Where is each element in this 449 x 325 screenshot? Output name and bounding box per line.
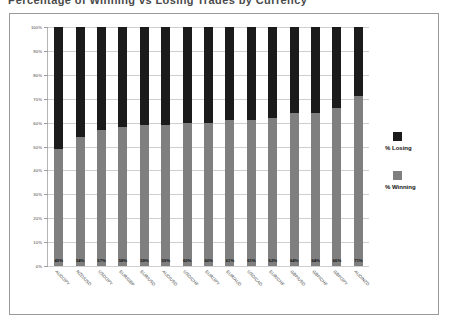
bar-segment-losing[interactable] xyxy=(332,27,341,108)
y-axis-label: 10% xyxy=(33,240,42,245)
bar-column[interactable]: 62%EUR/CHF xyxy=(262,27,283,266)
bar-group: 49%AUD/JPY54%NZD/USD57%USD/JPY58%EUR/GBP… xyxy=(48,27,369,266)
bar-value-label: 59% xyxy=(140,258,148,263)
x-axis-category-label: AUD/USD xyxy=(161,269,178,287)
bar-segment-winning[interactable] xyxy=(247,120,256,266)
stacked-bar[interactable] xyxy=(204,27,213,266)
y-axis-label: 60% xyxy=(33,120,42,125)
y-axis-label: 0% xyxy=(36,264,42,269)
bar-column[interactable]: 64%GBP/USD xyxy=(283,27,304,266)
y-axis-label: 70% xyxy=(33,96,42,101)
x-axis-category-label: AUD/NZD xyxy=(354,269,371,287)
bar-column[interactable]: 64%GBP/CHF xyxy=(305,27,326,266)
chart-legend: % Losing% Winning xyxy=(385,132,447,210)
stacked-bar[interactable] xyxy=(311,27,320,266)
stacked-bar[interactable] xyxy=(268,27,277,266)
legend-label: % Winning xyxy=(385,184,416,190)
bar-value-label: 61% xyxy=(247,258,255,263)
y-axis-label: 100% xyxy=(31,25,42,30)
bar-column[interactable]: 58%EUR/GBP xyxy=(112,27,133,266)
y-axis-label: 40% xyxy=(33,168,42,173)
x-axis-category-label: GBP/CHF xyxy=(311,269,328,287)
bar-segment-winning[interactable] xyxy=(290,113,299,266)
bar-column[interactable]: 60%USD/CHF xyxy=(176,27,197,266)
stacked-bar[interactable] xyxy=(140,27,149,266)
bar-segment-losing[interactable] xyxy=(54,27,63,149)
x-axis-category-label: GBP/JPY xyxy=(332,269,349,286)
stacked-bar[interactable] xyxy=(54,27,63,266)
bar-segment-winning[interactable] xyxy=(225,120,234,266)
bar-segment-winning[interactable] xyxy=(76,137,85,266)
bar-segment-winning[interactable] xyxy=(118,127,127,266)
legend-swatch xyxy=(393,132,402,141)
legend-label: % Losing xyxy=(385,145,412,151)
legend-item[interactable]: % Winning xyxy=(385,171,447,190)
bar-column[interactable]: 59%EUR/USD xyxy=(134,27,155,266)
x-axis-category-label: NZD/USD xyxy=(75,269,92,287)
bar-segment-losing[interactable] xyxy=(311,27,320,113)
stacked-bar[interactable] xyxy=(290,27,299,266)
bar-segment-losing[interactable] xyxy=(290,27,299,113)
stacked-bar[interactable] xyxy=(118,27,127,266)
bar-segment-winning[interactable] xyxy=(183,123,192,266)
y-axis-label: 20% xyxy=(33,216,42,221)
bar-segment-losing[interactable] xyxy=(225,27,234,120)
stacked-bar[interactable] xyxy=(354,27,363,266)
bar-column[interactable]: 57%USD/JPY xyxy=(91,27,112,266)
legend-item[interactable]: % Losing xyxy=(385,132,447,151)
bar-column[interactable]: 66%GBP/JPY xyxy=(326,27,347,266)
x-axis-category-label: GBP/USD xyxy=(290,269,307,287)
bar-value-label: 58% xyxy=(119,258,127,263)
bar-segment-losing[interactable] xyxy=(118,27,127,127)
bar-column[interactable]: 49%AUD/JPY xyxy=(48,27,69,266)
stacked-bar[interactable] xyxy=(97,27,106,266)
x-axis-category-label: USD/JPY xyxy=(97,269,114,286)
bar-segment-losing[interactable] xyxy=(97,27,106,130)
bar-column[interactable]: 59%AUD/USD xyxy=(155,27,176,266)
bar-segment-winning[interactable] xyxy=(332,108,341,266)
bar-column[interactable]: 54%NZD/USD xyxy=(69,27,90,266)
y-axis-tick xyxy=(44,266,48,267)
bar-segment-winning[interactable] xyxy=(311,113,320,266)
stacked-bar[interactable] xyxy=(332,27,341,266)
bar-segment-losing[interactable] xyxy=(247,27,256,120)
x-axis-category-label: EUR/AUD xyxy=(225,269,242,287)
bar-value-label: 71% xyxy=(354,258,362,263)
bar-value-label: 61% xyxy=(226,258,234,263)
bar-segment-losing[interactable] xyxy=(354,27,363,96)
bar-segment-losing[interactable] xyxy=(268,27,277,118)
chart-frame: 0%10%20%30%40%50%60%70%80%90%100% 49%AUD… xyxy=(9,13,439,315)
chart-title-clipped: Percentage of Winning vs Losing Trades b… xyxy=(8,0,308,7)
x-axis-category-label: EUR/CHF xyxy=(268,269,285,287)
bar-value-label: 54% xyxy=(76,258,84,263)
bar-value-label: 60% xyxy=(204,258,212,263)
bar-column[interactable]: 71%AUD/NZD xyxy=(348,27,369,266)
x-axis-category-label: EUR/USD xyxy=(140,269,157,287)
bar-segment-winning[interactable] xyxy=(54,149,63,266)
bar-segment-losing[interactable] xyxy=(140,27,149,125)
bar-segment-losing[interactable] xyxy=(161,27,170,125)
bar-segment-winning[interactable] xyxy=(140,125,149,266)
stacked-bar[interactable] xyxy=(161,27,170,266)
bar-column[interactable]: 60%EUR/JPY xyxy=(198,27,219,266)
bar-segment-losing[interactable] xyxy=(204,27,213,123)
bar-segment-winning[interactable] xyxy=(204,123,213,266)
stacked-bar[interactable] xyxy=(183,27,192,266)
bar-segment-winning[interactable] xyxy=(97,130,106,266)
gridline xyxy=(48,266,369,267)
bar-column[interactable]: 61%EUR/AUD xyxy=(219,27,240,266)
stacked-bar[interactable] xyxy=(225,27,234,266)
bar-value-label: 49% xyxy=(55,258,63,263)
stacked-bar[interactable] xyxy=(247,27,256,266)
bar-segment-losing[interactable] xyxy=(183,27,192,123)
chart-title-text: Percentage of Winning vs Losing Trades b… xyxy=(8,0,308,6)
bar-segment-losing[interactable] xyxy=(76,27,85,137)
bar-segment-winning[interactable] xyxy=(161,125,170,266)
bar-value-label: 64% xyxy=(290,258,298,263)
bar-column[interactable]: 61%USD/CAD xyxy=(241,27,262,266)
bar-segment-winning[interactable] xyxy=(268,118,277,266)
x-axis-category-label: EUR/JPY xyxy=(204,269,221,286)
stacked-bar[interactable] xyxy=(76,27,85,266)
bar-value-label: 62% xyxy=(269,258,277,263)
bar-segment-winning[interactable] xyxy=(354,96,363,266)
